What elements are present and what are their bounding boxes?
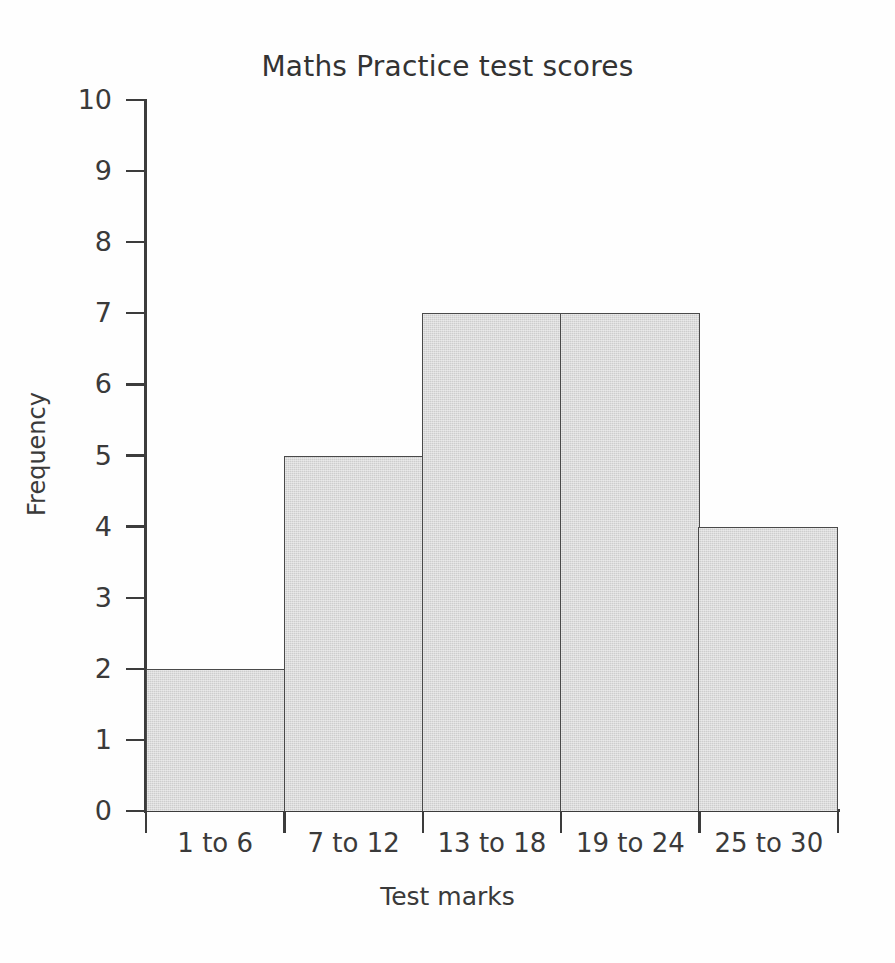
x-axis-tick-label: 25 to 30 <box>700 828 838 858</box>
y-axis-tick <box>126 383 146 385</box>
y-axis-tick <box>126 668 146 670</box>
x-axis-tick-label: 13 to 18 <box>423 828 561 858</box>
x-axis-tick-label: 1 to 6 <box>146 828 284 858</box>
y-axis-tick-label: 6 <box>52 370 112 397</box>
y-axis-tick-label: 10 <box>52 86 112 113</box>
chart-title: Maths Practice test scores <box>0 50 895 83</box>
histogram-bar <box>698 527 838 811</box>
y-axis-tick-label: 5 <box>52 442 112 469</box>
y-axis-tick-label: 9 <box>52 157 112 184</box>
y-axis-tick <box>126 739 146 741</box>
histogram-bar <box>284 456 424 812</box>
histogram-bar <box>422 313 562 811</box>
y-axis-tick <box>126 241 146 243</box>
histogram-figure: Maths Practice test scores 012345678910 … <box>0 0 895 963</box>
plot-area <box>146 100 838 811</box>
x-axis-tick-label: 19 to 24 <box>561 828 699 858</box>
y-axis-tick <box>126 597 146 599</box>
histogram-bar <box>146 669 286 811</box>
y-axis-tick <box>126 810 146 812</box>
histogram-bar <box>560 313 700 811</box>
x-axis-tick-label: 7 to 12 <box>284 828 422 858</box>
y-axis-tick <box>126 454 146 456</box>
y-axis-tick-label: 1 <box>52 726 112 753</box>
y-axis-tick <box>126 312 146 314</box>
y-axis-tick-label: 0 <box>52 797 112 824</box>
y-axis-tick <box>126 170 146 172</box>
y-axis-tick-label: 8 <box>52 228 112 255</box>
y-axis-tick <box>126 525 146 527</box>
y-axis-tick-label: 4 <box>52 513 112 540</box>
bar-group <box>146 100 838 811</box>
x-axis-title: Test marks <box>0 882 895 911</box>
y-axis-tick-label: 7 <box>52 299 112 326</box>
y-axis-tick <box>126 99 146 101</box>
y-axis-tick-label: 3 <box>52 584 112 611</box>
y-axis-title: Frequency <box>23 354 51 554</box>
y-axis-tick-label: 2 <box>52 655 112 682</box>
